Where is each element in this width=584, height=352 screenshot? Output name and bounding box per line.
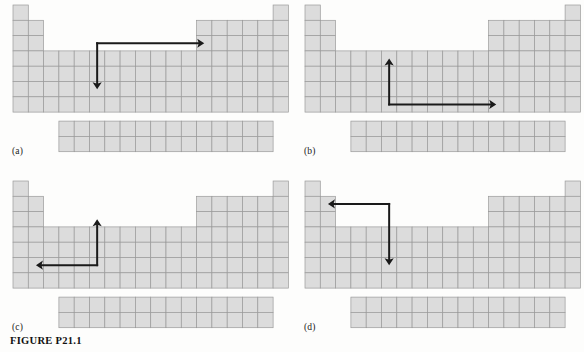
periodic-table-cell — [443, 273, 458, 288]
periodic-table-cell — [305, 36, 320, 51]
periodic-table-cell — [489, 227, 504, 242]
f-block-cell — [351, 312, 366, 327]
periodic-table-cell — [305, 66, 320, 81]
periodic-table-cell — [351, 82, 366, 97]
panel-d: (d) — [292, 176, 584, 352]
f-block-cell — [90, 121, 105, 136]
f-block-cell — [535, 121, 550, 136]
periodic-table-cell — [443, 258, 458, 273]
periodic-table-cell — [366, 227, 381, 242]
periodic-table-cell — [458, 227, 473, 242]
periodic-table-cell — [489, 196, 504, 211]
periodic-table-diagram-c — [0, 176, 292, 352]
periodic-table-cell — [366, 66, 381, 81]
f-block-cell — [212, 121, 227, 136]
periodic-table-cell — [458, 66, 473, 81]
f-block-cell — [550, 121, 565, 136]
periodic-table-cell — [181, 242, 196, 257]
periodic-table-cell — [13, 227, 28, 242]
periodic-table-cell — [166, 66, 181, 81]
periodic-table-cell — [397, 82, 412, 97]
periodic-table-cell — [504, 97, 519, 112]
f-block-cell — [489, 312, 504, 327]
periodic-table-cell — [44, 273, 59, 288]
periodic-table-cell — [535, 36, 550, 51]
periodic-table-cell — [28, 51, 43, 66]
periodic-table-cell — [535, 258, 550, 273]
f-block-cell — [443, 136, 458, 151]
periodic-table-cell — [59, 242, 74, 257]
periodic-table-cell — [212, 273, 227, 288]
periodic-table-cell — [197, 196, 212, 211]
panel-a: (a) — [0, 0, 292, 176]
periodic-table-cell — [550, 20, 565, 35]
f-block-cell — [550, 136, 565, 151]
f-block-cell — [382, 121, 397, 136]
periodic-table-cell — [227, 212, 242, 227]
periodic-table-cell — [212, 258, 227, 273]
periodic-table-cell — [443, 227, 458, 242]
periodic-table-cell — [550, 97, 565, 112]
periodic-table-cell — [427, 273, 442, 288]
f-block-cell — [166, 121, 181, 136]
periodic-table-cell — [44, 51, 59, 66]
periodic-table-cell — [504, 20, 519, 35]
periodic-table-cell — [427, 66, 442, 81]
periodic-table-cell — [212, 227, 227, 242]
periodic-table-cell — [28, 82, 43, 97]
periodic-table-cell — [13, 97, 28, 112]
periodic-table-cell — [166, 242, 181, 257]
f-block-cell — [105, 136, 120, 151]
periodic-table-cell — [336, 66, 351, 81]
periodic-table-cell — [227, 66, 242, 81]
periodic-table-cell — [197, 227, 212, 242]
periodic-table-cell — [427, 227, 442, 242]
periodic-table-cell — [273, 242, 288, 257]
periodic-table-cell — [197, 273, 212, 288]
periodic-table-cell — [151, 258, 166, 273]
periodic-table-cell — [504, 273, 519, 288]
periodic-table-cell — [443, 51, 458, 66]
periodic-table-cell — [44, 97, 59, 112]
periodic-table-cell — [565, 242, 580, 257]
periodic-table-cell — [336, 273, 351, 288]
f-block-cell — [351, 121, 366, 136]
periodic-table-cell — [427, 242, 442, 257]
periodic-table-cell — [243, 227, 258, 242]
f-block-cell — [135, 297, 150, 312]
f-block-cell — [427, 297, 442, 312]
periodic-table-cell — [305, 82, 320, 97]
periodic-table-cell — [305, 242, 320, 257]
periodic-table-cell — [504, 66, 519, 81]
f-block-cell — [90, 297, 105, 312]
periodic-table-cell — [351, 97, 366, 112]
f-block-cell — [489, 136, 504, 151]
periodic-table-cell — [473, 227, 488, 242]
periodic-table-cell — [44, 66, 59, 81]
periodic-table-cell — [535, 273, 550, 288]
periodic-table-cell — [258, 196, 273, 211]
periodic-table-cell — [135, 258, 150, 273]
periodic-table-cell — [74, 82, 89, 97]
f-block-cell — [458, 297, 473, 312]
periodic-table-grid-c — [13, 181, 288, 328]
periodic-table-cell — [550, 242, 565, 257]
f-block-cell — [90, 136, 105, 151]
periodic-table-cell — [74, 66, 89, 81]
periodic-table-cell — [273, 36, 288, 51]
f-block-cell — [166, 297, 181, 312]
periodic-table-cell — [59, 97, 74, 112]
periodic-table-cell — [519, 82, 534, 97]
f-block-cell — [59, 297, 74, 312]
f-block-cell — [151, 297, 166, 312]
f-block-cell — [258, 312, 273, 327]
periodic-table-cell — [258, 273, 273, 288]
periodic-table-cell — [181, 82, 196, 97]
periodic-table-cell — [397, 51, 412, 66]
f-block-cell — [504, 312, 519, 327]
periodic-table-cell — [74, 97, 89, 112]
periodic-table-cell — [550, 273, 565, 288]
periodic-table-cell — [135, 242, 150, 257]
periodic-table-cell — [565, 82, 580, 97]
f-block-cell — [382, 297, 397, 312]
